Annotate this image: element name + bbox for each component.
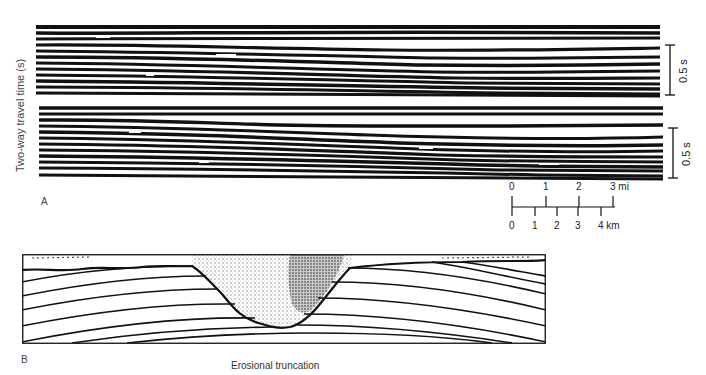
lower-seismic-section	[39, 105, 663, 181]
km-tick-1: 1	[532, 220, 538, 231]
upper-time-scale-label: 0.5 s	[677, 59, 689, 83]
distance-scale-bar	[510, 194, 618, 216]
mi-tick-2: 2	[576, 181, 582, 192]
mi-tick-3-label: 3 mi	[610, 181, 629, 192]
lower-time-scale-bar	[667, 127, 679, 179]
upper-time-scale-bar	[664, 44, 676, 96]
panel-letter-b: B	[21, 354, 28, 365]
km-tick-0: 0	[509, 220, 515, 231]
upper-seismic-section	[36, 24, 660, 98]
km-tick-3: 3	[575, 220, 581, 231]
km-tick-2: 2	[554, 220, 560, 231]
lower-time-scale-label: 0.5 s	[680, 142, 692, 166]
mi-tick-0: 0	[509, 181, 515, 192]
panel-letter-a: A	[41, 196, 48, 207]
mi-tick-1: 1	[543, 181, 549, 192]
y-axis-label: Two-way travel time (s)	[14, 59, 26, 172]
km-tick-4-label: 4 km	[598, 220, 620, 231]
erosional-truncation-diagram	[22, 254, 546, 344]
panel-b-caption: Erosional truncation	[231, 360, 319, 371]
